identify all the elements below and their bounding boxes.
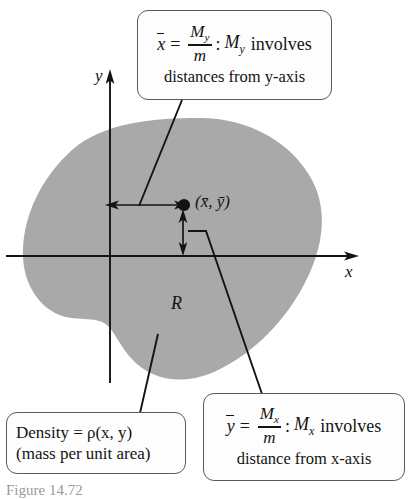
density-line-1: Density = ρ(x, y) bbox=[16, 423, 132, 442]
ybar-colon: : bbox=[285, 416, 290, 436]
callout-ybar: y = Mx m : Mx involves distance from x-a… bbox=[203, 393, 405, 481]
ybar-involves: involves bbox=[320, 416, 381, 436]
xbar-numerator: My bbox=[188, 23, 211, 44]
ybar-denominator: m bbox=[261, 429, 277, 446]
callout-xbar: x = My m : My involves distances from y-… bbox=[137, 10, 332, 100]
xbar-description: distances from y-axis bbox=[164, 68, 305, 86]
x-axis-label: x bbox=[345, 262, 353, 282]
ybar-fraction: Mx m bbox=[258, 405, 281, 446]
centroid-label: (x̄, ȳ) bbox=[195, 192, 230, 212]
ybar-numerator: Mx bbox=[258, 405, 281, 426]
region-r-shape bbox=[23, 118, 322, 380]
density-line-2: (mass per unit area) bbox=[16, 444, 151, 463]
ybar-equals: = bbox=[240, 416, 250, 436]
centroid-point bbox=[178, 199, 190, 211]
callout-density: Density = ρ(x, y) (mass per unit area) bbox=[6, 412, 186, 474]
ybar-term: Mx bbox=[294, 414, 314, 438]
region-label-r: R bbox=[171, 293, 182, 314]
y-axis-label: y bbox=[95, 66, 103, 86]
xbar-variable: x bbox=[157, 34, 165, 54]
xbar-equation: x = My m : My involves bbox=[157, 24, 312, 65]
xbar-fraction: My m bbox=[188, 23, 211, 64]
ybar-description: distance from x-axis bbox=[237, 450, 372, 468]
xbar-denominator: m bbox=[192, 47, 208, 64]
ybar-variable: y bbox=[227, 416, 235, 436]
xbar-colon: : bbox=[216, 34, 221, 54]
xbar-involves: involves bbox=[251, 34, 312, 54]
xbar-equals: = bbox=[170, 34, 180, 54]
xbar-term: My bbox=[225, 32, 245, 56]
ybar-equation: y = Mx m : Mx involves bbox=[227, 406, 382, 447]
figure-caption: Figure 14.72 bbox=[6, 482, 83, 499]
